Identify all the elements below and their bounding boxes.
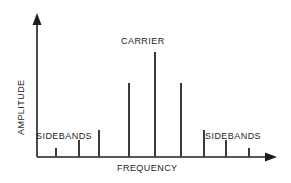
carrier-label: CARRIER (121, 36, 165, 46)
spectral-line-sideband-2-left (98, 130, 100, 157)
spectral-line-sideband-1-right (180, 83, 182, 157)
x-axis-arrow-icon (265, 153, 277, 162)
spectral-line-sideband-4-left (55, 148, 57, 157)
spectral-line-sideband-3-right (225, 140, 227, 157)
spectral-line-sideband-4-right (248, 148, 250, 157)
sidebands-left-label: SIDEBANDS (36, 131, 92, 141)
y-axis-label: AMPLITUDE (16, 79, 26, 135)
sidebands-right-label: SIDEBANDS (205, 131, 261, 141)
spectrum-figure: AMPLITUDE FREQUENCY CARRIER SIDEBANDS SI… (0, 0, 291, 183)
spectral-line-sideband-1-left (128, 83, 130, 157)
y-axis-arrow-icon (33, 13, 42, 25)
spectral-line-carrier (154, 52, 156, 157)
spectral-line-sideband-3-left (78, 140, 80, 157)
x-axis-label: FREQUENCY (117, 163, 178, 173)
